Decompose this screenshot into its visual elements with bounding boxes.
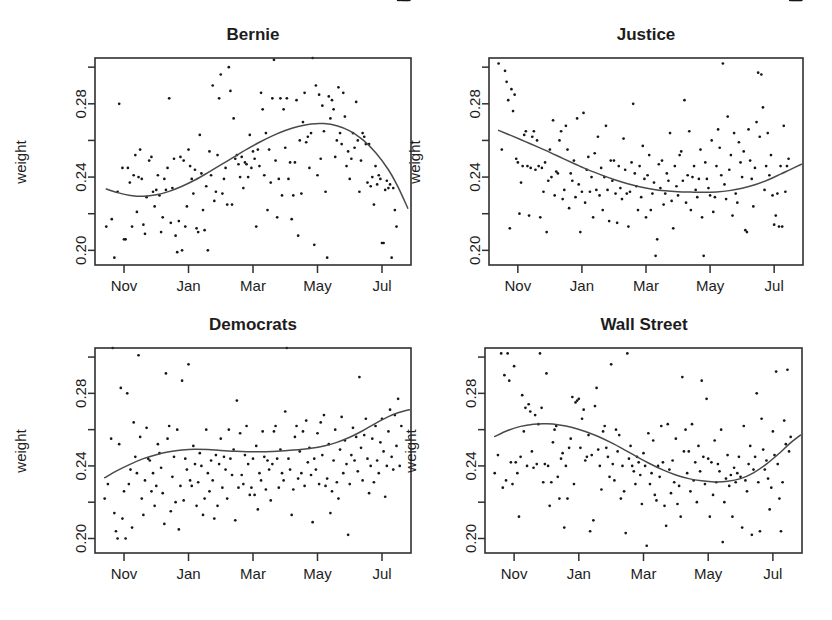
panel-title: Bernie [227, 25, 280, 44]
y-tick-label: 0.28 [466, 89, 483, 118]
figure-canvas: Bernieweight0.200.240.28NovJanMarMayJulJ… [0, 0, 832, 620]
x-tick-label: Nov [501, 565, 528, 582]
y-tick-label: 0.24 [72, 162, 89, 191]
y-tick-label: 0.24 [72, 451, 89, 480]
x-tick-label: May [694, 565, 723, 582]
x-tick-label: Jul [765, 277, 784, 294]
y-tick-label: 0.20 [466, 236, 483, 265]
x-tick-label: Jul [763, 565, 782, 582]
loess-smooth-curve [105, 410, 410, 478]
x-tick-label: Jul [372, 277, 391, 294]
x-tick-label: May [303, 565, 332, 582]
panel-bernie: Bernieweight0.200.240.28NovJanMarMayJul [12, 0, 411, 294]
x-tick-label: Jul [372, 565, 391, 582]
scatter-points [103, 0, 410, 540]
x-tick-label: Mar [240, 565, 266, 582]
y-axis-label: weight [406, 139, 423, 184]
plot-frame [489, 58, 803, 265]
x-tick-label: Mar [240, 277, 266, 294]
y-axis-label: weight [402, 428, 419, 473]
scatter-points [493, 0, 801, 547]
panel-justice: Justiceweight0.200.240.28NovJanMarMayJul [406, 0, 803, 294]
panel-democrats: Democratsweight0.200.240.28NovJanMarMayJ… [12, 0, 411, 582]
plot-frame [95, 348, 411, 553]
x-tick-label: Jan [176, 277, 200, 294]
x-tick-label: Nov [111, 565, 138, 582]
panel-title: Wall Street [600, 315, 688, 334]
y-tick-label: 0.28 [462, 379, 479, 408]
x-tick-label: Nov [504, 277, 531, 294]
y-tick-label: 0.24 [466, 162, 483, 191]
y-tick-label: 0.20 [72, 236, 89, 265]
y-tick-label: 0.24 [462, 451, 479, 480]
x-tick-label: May [696, 277, 725, 294]
x-tick-label: Mar [631, 565, 657, 582]
x-tick-label: Nov [111, 277, 138, 294]
y-tick-label: 0.28 [72, 89, 89, 118]
y-tick-label: 0.20 [462, 524, 479, 553]
y-axis-label: weight [12, 428, 29, 473]
multi-panel-scatter-figure: Bernieweight0.200.240.28NovJanMarMayJulJ… [0, 0, 832, 620]
y-axis-label: weight [12, 139, 29, 184]
panel-wall-street: Wall Streetweight0.200.240.28NovJanMarMa… [402, 0, 802, 582]
loess-smooth-curve [499, 130, 802, 192]
panel-title: Justice [617, 25, 676, 44]
x-tick-label: Jan [567, 565, 591, 582]
plot-frame [95, 58, 411, 265]
x-tick-label: Jan [570, 277, 594, 294]
x-tick-label: Jan [176, 565, 200, 582]
panel-title: Democrats [209, 315, 297, 334]
x-tick-label: May [303, 277, 332, 294]
y-tick-label: 0.20 [72, 524, 89, 553]
y-tick-label: 0.28 [72, 379, 89, 408]
loess-smooth-curve [106, 123, 407, 208]
x-tick-label: Mar [633, 277, 659, 294]
